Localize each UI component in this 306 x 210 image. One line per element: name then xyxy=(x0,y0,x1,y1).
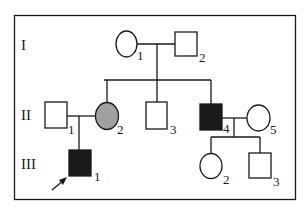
generation-label-1: I xyxy=(21,37,26,53)
individual-II-2 xyxy=(96,103,119,130)
individual-label-II-3: 3 xyxy=(170,122,177,137)
individual-II-5 xyxy=(247,105,270,131)
individual-I-1 xyxy=(116,31,137,57)
individual-III-1 xyxy=(69,150,91,176)
individual-II-4 xyxy=(200,104,222,130)
individual-I-2 xyxy=(175,32,197,56)
connector-lines xyxy=(67,44,260,153)
individual-label-I-2: 2 xyxy=(199,50,206,65)
individual-label-III-3: 3 xyxy=(273,174,280,189)
individual-label-III-2: 2 xyxy=(223,172,230,187)
individual-label-II-2: 2 xyxy=(117,122,124,137)
individual-III-2 xyxy=(200,154,222,179)
individual-label-II-1: 1 xyxy=(68,122,75,137)
individual-II-3 xyxy=(146,102,167,129)
generation-label-2: II xyxy=(21,107,31,123)
individual-label-II-5: 5 xyxy=(270,122,277,137)
individual-label-I-1: 1 xyxy=(137,48,144,63)
individual-label-III-1: 1 xyxy=(94,169,101,184)
generation-label-3: III xyxy=(21,156,36,172)
individual-III-3 xyxy=(249,153,271,178)
pedigree-diagram: I II III 1 2 1 2 3 4 5 1 2 xyxy=(0,0,306,210)
individual-II-1 xyxy=(45,102,67,128)
proband-arrow-icon xyxy=(52,177,67,190)
individual-label-II-4: 4 xyxy=(223,121,230,136)
